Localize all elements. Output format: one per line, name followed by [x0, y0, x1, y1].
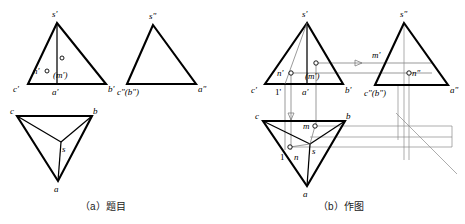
figure-container: s' c' b' a' n' (m') s" c"(b") a" c b a s: [0, 0, 465, 224]
label-a-top-b: a: [303, 189, 308, 199]
top-edge-cs-a: [17, 116, 61, 142]
construction-lines-b: [285, 23, 457, 174]
label-n-front-a: n': [33, 66, 41, 76]
point-n-marker-b: [289, 71, 293, 75]
label-b-front-b: b': [345, 85, 353, 95]
label-b-top-b: b: [346, 111, 351, 121]
label-m-front-b: (m'): [305, 71, 319, 81]
side-triangle-outline-a: [127, 25, 196, 84]
panel-a-top-view: c b a s: [10, 106, 98, 194]
panel-b-front-view: s' c' b' a' n' (m') 1': [251, 9, 353, 97]
top-aux-line-s-to-n-b: [290, 144, 310, 147]
miter-line-45deg: [396, 113, 457, 174]
label-m-side-b: m': [372, 50, 381, 60]
label-s-front-b: s': [302, 9, 309, 19]
label-c-front-a: c': [13, 84, 20, 94]
point-n-marker-side-b: [407, 71, 411, 75]
label-n-top-b: n: [294, 152, 299, 162]
label-a-top-a: a: [54, 184, 59, 194]
label-cb-side-b: c"(b"): [364, 88, 386, 98]
label-c-front-b: c': [251, 85, 258, 95]
point-m-marker-top-b: [313, 124, 317, 128]
label-s-top-b: s: [312, 146, 316, 156]
point-n-marker-a: [45, 69, 49, 73]
front-aux-line-s-to-one-b: [285, 23, 307, 84]
label-b-front-a: b': [108, 84, 116, 94]
label-c-top-b: c: [255, 111, 259, 121]
label-one-front-b: 1': [275, 87, 282, 97]
label-n-side-b: n": [412, 68, 421, 78]
panel-b-side-view: s" c"(b") a" m' n": [364, 9, 459, 98]
label-s-side-a: s": [149, 11, 157, 21]
label-a-front-b: a': [302, 87, 310, 97]
label-b-top-a: b: [93, 106, 98, 116]
point-n-marker-top-b: [288, 145, 292, 149]
caption-a: （a）题目: [80, 198, 126, 213]
top-edge-bs-a: [61, 116, 92, 142]
technical-drawing: s' c' b' a' n' (m') s" c"(b") a" c b a s: [0, 0, 465, 224]
point-m-marker-a: [60, 56, 64, 60]
label-s-top-a: s: [62, 144, 66, 154]
label-m-top-b: m: [303, 121, 310, 131]
label-m-front-a: (m'): [53, 70, 67, 80]
label-n-front-b: n': [277, 68, 285, 78]
label-cb-side-a: c"(b"): [117, 87, 139, 97]
label-one-top-b: 1: [280, 152, 285, 162]
caption-b: （b）作图: [318, 198, 364, 213]
point-m-marker-b: [314, 61, 318, 65]
label-a-side-b: a": [450, 85, 459, 95]
panel-a-side-view: s" c"(b") a": [117, 11, 207, 97]
panel-a-front-view: s' c' b' a' n' (m'): [13, 9, 116, 97]
panel-b-top-view: c b a s m n 1: [255, 111, 351, 199]
label-s-side-b: s": [400, 9, 408, 19]
label-a-side-a: a": [198, 84, 207, 94]
label-s-front-a: s': [52, 9, 59, 19]
label-a-front-a: a': [52, 87, 60, 97]
label-c-top-a: c: [10, 106, 14, 116]
